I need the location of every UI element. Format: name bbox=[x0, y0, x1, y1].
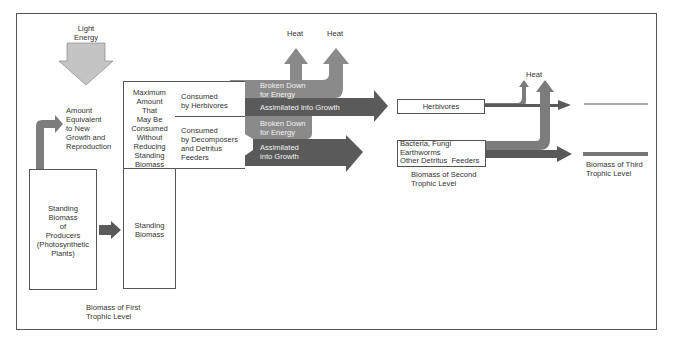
herb-assimilated-label: Assimilated into Growth bbox=[260, 103, 340, 112]
second-level-caption: Biomass of Second Trophic Level bbox=[411, 170, 476, 188]
heat-label-3: Heat bbox=[526, 70, 542, 79]
third-level-caption: Biomass of Third Trophic Level bbox=[586, 160, 643, 178]
herbivore-heat-arrow bbox=[485, 80, 529, 107]
light-energy-label: Light Energy bbox=[66, 24, 106, 42]
first-level-caption: Biomass of First Trophic Level bbox=[86, 303, 140, 321]
light-energy-arrow bbox=[59, 43, 113, 85]
decomposers-row-label: Consumed by Decomposers and Detritus Fee… bbox=[181, 126, 238, 162]
producer-transfer-arrow bbox=[99, 221, 121, 239]
producers-label: Standing Biomass of Producers (Photosynt… bbox=[29, 204, 97, 258]
herb-broken-down-label: Broken Down for Energy bbox=[260, 81, 306, 99]
detritus-heat-arrow bbox=[485, 80, 554, 150]
herbivores-label: Herbivores bbox=[397, 102, 485, 111]
decomp-assimilated-label: Assimilated into Growth bbox=[260, 143, 299, 161]
heat-label-1: Heat bbox=[287, 29, 303, 38]
herbivore-out-arrow bbox=[485, 100, 571, 110]
detritus-feeders-label: Bacteria, Fungi Earthworms Other Detritu… bbox=[400, 140, 479, 166]
heat-label-2: Heat bbox=[327, 29, 343, 38]
standing-biomass-label: Standing Biomass bbox=[123, 221, 176, 239]
flow-arrows bbox=[0, 0, 676, 341]
decomp-broken-down-label: Broken Down for Energy bbox=[260, 119, 306, 137]
growth-bent-arrow bbox=[36, 115, 63, 169]
third-level-detritus-biomass bbox=[583, 152, 648, 156]
new-growth-label: Amount Equivalent to New Growth and Repr… bbox=[66, 106, 111, 151]
herbivores-row-label: Consumed by Herbivores bbox=[181, 92, 228, 110]
max-consumed-label: Maximum Amount That May Be Consumed With… bbox=[123, 88, 176, 169]
